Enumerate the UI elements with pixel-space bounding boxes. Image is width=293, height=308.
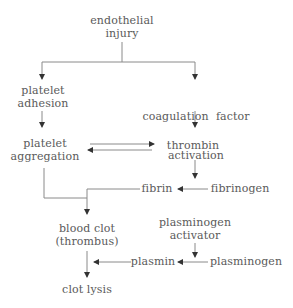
node-label: endothelial — [90, 14, 154, 27]
node-label: plasmin — [131, 255, 176, 268]
node-blood-clot: blood clot (thrombus) — [55, 222, 118, 248]
node-coagulation-factor-activation: coagulation factor activation — [142, 84, 249, 188]
node-label: activator — [159, 229, 231, 242]
node-label: plasminogen — [210, 255, 282, 268]
node-label: adhesion — [18, 97, 69, 110]
node-platelet-adhesion: platelet adhesion — [18, 84, 69, 110]
node-label: clot lysis — [62, 283, 112, 296]
node-endothelial-injury: endothelial injury — [90, 14, 154, 40]
node-thrombin: thrombin — [167, 139, 219, 152]
node-label: aggregation — [11, 150, 80, 163]
node-label: fibrinogen — [211, 182, 270, 195]
node-label: platelet — [11, 137, 80, 150]
node-fibrin: fibrin — [141, 182, 172, 195]
node-label: blood clot — [55, 222, 118, 235]
node-label: platelet — [18, 84, 69, 97]
node-clot-lysis: clot lysis — [62, 283, 112, 296]
node-platelet-aggregation: platelet aggregation — [11, 137, 80, 163]
hemostasis-diagram: endothelial injury platelet adhesion coa… — [0, 0, 293, 308]
node-label: coagulation factor — [142, 110, 249, 123]
node-label: plasminogen — [159, 216, 231, 229]
node-label: injury — [90, 27, 154, 40]
node-label: (thrombus) — [55, 235, 118, 248]
node-label: fibrin — [141, 182, 172, 195]
node-plasmin: plasmin — [131, 255, 176, 268]
node-fibrinogen: fibrinogen — [211, 182, 270, 195]
node-label: thrombin — [167, 139, 219, 152]
node-plasminogen-activator: plasminogen activator — [159, 216, 231, 242]
node-plasminogen: plasminogen — [210, 255, 282, 268]
